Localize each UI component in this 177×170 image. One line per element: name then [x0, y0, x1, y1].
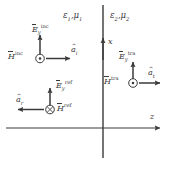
incident-e-superscript: inc: [41, 23, 49, 29]
incident-e-field-label: Eyinc: [32, 24, 49, 35]
transmitted-h-field-dot-icon: [129, 79, 138, 88]
diagram-vector-graphics: [0, 0, 177, 170]
transmitted-unit-vector-label: ^at: [148, 69, 155, 79]
reflected-e-subscript: y: [62, 85, 65, 91]
reflected-e-symbol: E: [56, 81, 62, 90]
figure-canvas: ε1,μ1 ε2,μ2 x z Eyinc Hinc ^ai Eyref Hre…: [0, 0, 177, 170]
transmitted-e-symbol: E: [119, 52, 125, 61]
medium-2-mu-sub: 2: [126, 16, 129, 22]
z-axis-label: z: [150, 113, 154, 121]
reflected-h-symbol: H: [57, 104, 64, 113]
reflected-h-superscript: ref: [64, 102, 71, 108]
medium-2-parameters-label: ε2,μ2: [110, 11, 129, 22]
incident-h-superscript: inc: [15, 50, 23, 56]
transmitted-e-subscript: y: [125, 56, 128, 62]
reflected-h-field-label: Href: [57, 103, 71, 113]
x-axis-label: x: [108, 38, 113, 46]
reflected-unit-vector-label: ^ar: [16, 96, 23, 106]
medium-1-parameters-label: ε1,μ1: [63, 11, 82, 22]
transmitted-e-field-label: Eytra: [119, 51, 135, 62]
incident-h-field-label: Hinc: [8, 51, 23, 61]
reflected-unit-vector-subscript: r: [21, 100, 23, 106]
incident-h-symbol: H: [8, 52, 15, 61]
transmitted-h-symbol: H: [104, 77, 111, 86]
medium-1-mu-sub: 1: [79, 16, 82, 22]
transmitted-h-superscript: tra: [111, 75, 119, 81]
reflected-e-field-label: Eyref: [56, 80, 72, 91]
reflected-h-field-cross-icon: [46, 105, 55, 114]
incident-unit-vector-subscript: i: [76, 50, 78, 56]
transmitted-unit-vector-subscript: t: [153, 73, 155, 79]
reflected-e-superscript: ref: [65, 79, 72, 85]
incident-h-field-dot-icon: [36, 54, 45, 63]
transmitted-e-superscript: tra: [128, 50, 136, 56]
transmitted-h-field-label: Htra: [104, 76, 119, 86]
incident-e-subscript: y: [38, 29, 41, 35]
incident-unit-vector-label: ^ai: [71, 46, 77, 56]
incident-e-symbol: E: [32, 25, 38, 34]
